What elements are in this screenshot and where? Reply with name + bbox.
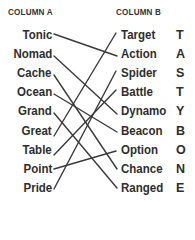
answer-letter: N <box>176 162 185 176</box>
answer-letter: S <box>176 66 184 80</box>
column-a-item[interactable]: Grand <box>18 104 52 118</box>
answer-letter: A <box>176 47 185 61</box>
column-b-item[interactable]: Dynamo <box>121 104 166 118</box>
column-a-item[interactable]: Great <box>22 124 52 138</box>
column-b-item[interactable]: Spider <box>121 66 157 80</box>
column-a-item[interactable]: Nomad <box>13 47 52 61</box>
line-tonic-action <box>54 34 117 56</box>
column-b-item[interactable]: Battle <box>121 85 153 99</box>
line-point-option <box>54 151 116 169</box>
column-a-item[interactable]: Point <box>23 162 52 176</box>
line-grand-ranged <box>54 113 117 188</box>
column-b-item[interactable]: Ranged <box>121 181 163 195</box>
answer-letter: T <box>176 28 184 42</box>
column-b-item[interactable]: Chance <box>121 162 163 176</box>
answer-letter: T <box>176 85 184 99</box>
column-b-item[interactable]: Action <box>121 47 157 61</box>
column-b-item[interactable]: Option <box>121 143 158 157</box>
answer-letter: Y <box>176 104 184 118</box>
answer-letter: B <box>176 124 185 138</box>
column-b-item[interactable]: Beacon <box>121 124 163 138</box>
column-a-item[interactable]: Ocean <box>17 85 52 99</box>
column-a-item[interactable]: Tonic <box>22 28 52 42</box>
answer-letter: O <box>176 143 186 157</box>
answer-letter: E <box>176 181 184 195</box>
column-b-item[interactable]: Target <box>121 28 155 42</box>
column-a-item[interactable]: Table <box>23 143 52 157</box>
column-a-item[interactable]: Pride <box>23 181 52 195</box>
column-a-item[interactable]: Cache <box>17 66 52 80</box>
